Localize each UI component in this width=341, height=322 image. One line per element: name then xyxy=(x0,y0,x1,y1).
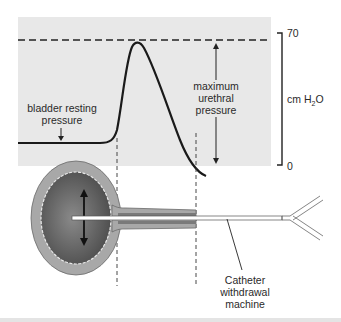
bladder-resting-pressure-label: bladder resting pressure xyxy=(26,102,98,126)
unit-label: cm H2O xyxy=(287,93,324,110)
catheter-label-pointer xyxy=(227,219,242,270)
catheter-withdrawal-machine-label: Catheter withdrawal machine xyxy=(215,274,275,310)
urethral-pressure-diagram: bladder resting pressure maximum urethra… xyxy=(0,0,341,322)
scale-bracket xyxy=(277,33,282,165)
scale-max-label: 70 xyxy=(287,27,299,39)
maximum-urethral-pressure-label: maximum urethral pressure xyxy=(192,80,240,116)
bottom-divider xyxy=(0,318,341,322)
scale-min-label: 0 xyxy=(287,160,293,172)
